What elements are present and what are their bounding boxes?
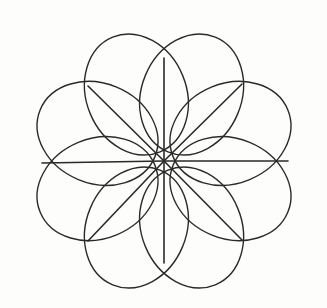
rosette-figure: [0, 0, 327, 308]
figure-canvas-container: [0, 0, 327, 308]
